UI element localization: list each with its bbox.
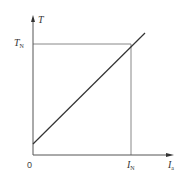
y-axis-label: T xyxy=(38,15,44,25)
torque-current-chart: T TN 0 IN Ia xyxy=(0,0,189,189)
x-axis-arrow-icon xyxy=(166,153,174,157)
y-axis-arrow-icon xyxy=(31,15,35,22)
y-tick-label-tn: TN xyxy=(14,38,24,49)
x-axis-label: Ia xyxy=(168,160,174,171)
torque-line xyxy=(33,33,145,144)
origin-label: 0 xyxy=(27,161,32,170)
x-tick-label-in: IN xyxy=(127,160,135,171)
